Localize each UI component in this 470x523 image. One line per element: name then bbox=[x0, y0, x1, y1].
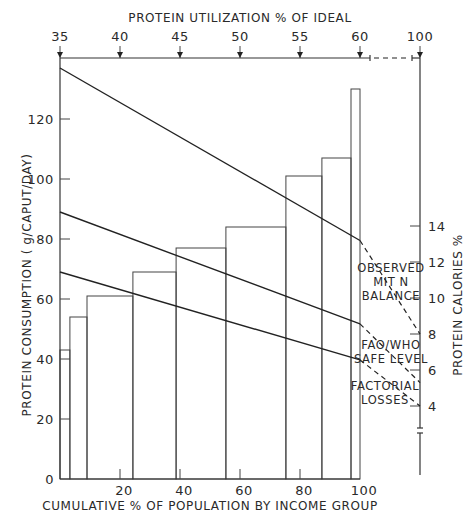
protein-consumption-chart: 0204060801001202040608010035404550556010… bbox=[0, 0, 470, 523]
series-label-line: SAFE LEVEL bbox=[354, 352, 428, 366]
series-label-line: LOSSES bbox=[361, 393, 409, 407]
histogram-bar bbox=[60, 350, 70, 479]
series-line bbox=[60, 212, 360, 324]
top-tick-label: 55 bbox=[291, 29, 309, 44]
top-tick-label: 45 bbox=[171, 29, 189, 44]
series-label-line: FAO/WHO bbox=[361, 338, 420, 352]
down-arrow-icon bbox=[177, 52, 183, 58]
series-line bbox=[60, 272, 360, 360]
histogram-bars bbox=[60, 89, 360, 479]
right-tick-label: 4 bbox=[428, 399, 437, 414]
top-axis-title: PROTEIN UTILIZATION % OF IDEAL bbox=[128, 11, 351, 25]
y-tick-label: 120 bbox=[27, 112, 54, 127]
series-label-line: OBSERVED bbox=[357, 261, 424, 275]
top-tick-label: 40 bbox=[111, 29, 129, 44]
top-tick-label: 35 bbox=[51, 29, 69, 44]
down-arrow-icon bbox=[237, 52, 243, 58]
histogram-bar bbox=[87, 296, 133, 479]
right-axis-title: PROTEIN CALORIES % bbox=[451, 234, 465, 376]
series-line bbox=[60, 68, 360, 241]
histogram-bar bbox=[286, 176, 322, 479]
histogram-bar bbox=[133, 272, 176, 479]
series-label: FAO/WHOSAFE LEVEL bbox=[354, 338, 428, 366]
y-axis-title: PROTEIN CONSUMPTION ( g/CAPUT/DAY) bbox=[20, 153, 34, 416]
down-arrow-icon bbox=[57, 52, 63, 58]
right-tick-label: 8 bbox=[428, 327, 437, 342]
down-arrow-icon bbox=[357, 52, 363, 58]
chart-canvas: 0204060801001202040608010035404550556010… bbox=[0, 0, 470, 523]
y-tick-label: 60 bbox=[36, 292, 54, 307]
down-arrow-icon bbox=[117, 52, 123, 58]
x-tick-label: 80 bbox=[295, 483, 313, 498]
down-arrow-icon bbox=[417, 52, 423, 58]
right-tick-label: 10 bbox=[428, 291, 446, 306]
series-label-line: BALANCE bbox=[362, 289, 420, 303]
series-label: FACTORIALLOSSES bbox=[351, 379, 419, 407]
x-tick-label: 20 bbox=[115, 483, 133, 498]
right-tick-label: 6 bbox=[428, 363, 437, 378]
histogram-bar bbox=[176, 248, 226, 479]
top-tick-label: 50 bbox=[231, 29, 249, 44]
histogram-bar bbox=[351, 89, 360, 479]
histogram-bar bbox=[226, 227, 286, 479]
y-tick-label: 0 bbox=[45, 472, 54, 487]
y-tick-label: 40 bbox=[36, 352, 54, 367]
x-axis-title: CUMULATIVE % OF POPULATION BY INCOME GRO… bbox=[42, 499, 378, 513]
series-label-line: FACTORIAL bbox=[351, 379, 419, 393]
x-tick-label: 40 bbox=[175, 483, 193, 498]
y-tick-label: 20 bbox=[36, 412, 54, 427]
series-label-line: MIT N bbox=[373, 275, 409, 289]
down-arrow-icon bbox=[297, 52, 303, 58]
right-tick-label: 14 bbox=[428, 219, 446, 234]
right-tick-label: 12 bbox=[428, 255, 446, 270]
x-tick-label: 60 bbox=[235, 483, 253, 498]
y-tick-label: 80 bbox=[36, 232, 54, 247]
top-tick-label: 100 bbox=[407, 29, 434, 44]
top-tick-label: 60 bbox=[351, 29, 369, 44]
series-label: OBSERVEDMIT NBALANCE bbox=[357, 261, 424, 303]
histogram-bar bbox=[70, 317, 87, 479]
x-tick-label: 100 bbox=[351, 483, 378, 498]
